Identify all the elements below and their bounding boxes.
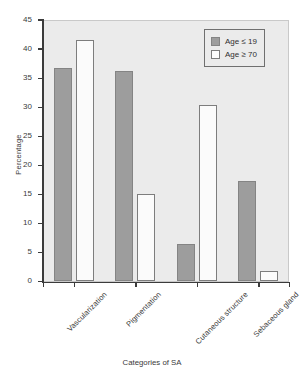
legend-label: Age ≥ 70	[225, 50, 257, 59]
y-axis-tick-label: 20	[23, 160, 32, 169]
x-axis-tick-mark	[258, 282, 259, 287]
x-axis-category-label: Vascularization	[65, 290, 108, 333]
y-axis-tick-mark	[38, 223, 43, 224]
x-axis-title: Categories of SA	[0, 358, 304, 367]
bar	[199, 105, 217, 282]
bar	[177, 244, 195, 281]
bar	[115, 71, 133, 281]
legend: Age ≤ 19Age ≥ 70	[204, 29, 265, 67]
x-axis-tick-mark	[197, 282, 198, 287]
x-axis-tick-mark	[74, 282, 75, 287]
y-axis-line	[42, 19, 44, 283]
legend-label: Age ≤ 19	[225, 37, 257, 46]
y-axis-tick-mark	[38, 165, 43, 166]
y-axis-tick-mark	[38, 252, 43, 253]
y-axis-tick-mark	[38, 107, 43, 108]
bar	[137, 194, 155, 282]
bar	[76, 40, 94, 281]
y-axis-tick-label: 15	[23, 189, 32, 198]
y-axis-tick-label: 10	[23, 218, 32, 227]
x-axis-end-tick-mark	[289, 282, 290, 287]
x-axis-end-tick-mark	[43, 282, 44, 287]
y-axis-tick-mark	[38, 78, 43, 79]
y-axis-tick-label: 25	[23, 131, 32, 140]
bar	[260, 271, 278, 281]
y-axis-title: Percentage	[14, 115, 23, 195]
y-axis-tick-mark	[38, 48, 43, 49]
x-axis-category-label: Pigmentation	[125, 290, 164, 329]
y-axis-tick-label: 0	[28, 276, 32, 285]
x-axis-tick-mark	[135, 282, 136, 287]
legend-item: Age ≤ 19	[211, 35, 257, 48]
legend-item: Age ≥ 70	[211, 48, 257, 61]
bar-chart-figure: Percentage 051015202530354045 Vasculariz…	[0, 0, 304, 378]
y-axis-tick-mark	[38, 136, 43, 137]
y-axis-tick-label: 5	[28, 247, 32, 256]
legend-swatch-2	[211, 50, 220, 59]
y-axis-tick-label: 45	[23, 15, 32, 24]
y-axis-tick-label: 35	[23, 73, 32, 82]
y-axis-tick-mark	[38, 281, 43, 282]
y-axis-tick-mark	[38, 194, 43, 195]
x-axis-category-label: Sebaceous gland	[252, 290, 301, 339]
x-axis-category-label: Cutaneous structure	[193, 290, 249, 346]
legend-swatch-1	[211, 37, 220, 46]
x-axis-line	[42, 282, 290, 284]
y-axis-tick-label: 40	[23, 44, 32, 53]
bar	[54, 68, 72, 281]
y-axis-tick-mark	[38, 19, 43, 20]
y-axis-tick-label: 30	[23, 102, 32, 111]
bar	[238, 181, 256, 282]
